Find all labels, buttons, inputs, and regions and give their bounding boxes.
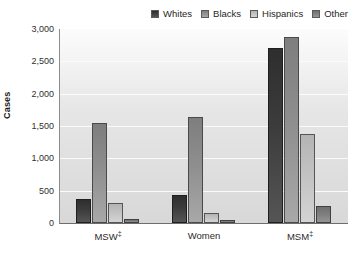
legend-item-blacks: Blacks	[201, 9, 241, 19]
bar-group	[268, 29, 332, 223]
bar-group	[76, 29, 140, 223]
y-tick-label: 2,000	[6, 89, 54, 99]
bar-whites-msm	[268, 48, 283, 223]
bar-hispanics-msm	[300, 134, 315, 223]
bar-blacks-msm	[284, 37, 299, 223]
y-tick-label: 3,000	[6, 24, 54, 34]
x-tick-label: MSW‡	[94, 230, 121, 242]
bar-whites-msw	[76, 199, 91, 223]
y-tick-label: 2,500	[6, 56, 54, 66]
bar-group	[172, 29, 236, 223]
legend-swatch-hispanics	[250, 10, 258, 18]
legend-swatch-other	[312, 10, 320, 18]
bar-hispanics-women	[204, 213, 219, 223]
bar-other-women	[220, 220, 235, 223]
legend-label-blacks: Blacks	[213, 9, 241, 19]
bar-other-msw	[124, 219, 139, 223]
legend-label-whites: Whites	[163, 9, 192, 19]
bars-layer	[60, 29, 347, 223]
legend-item-whites: Whites	[151, 9, 192, 19]
chart-legend: Whites Blacks Hispanics Other	[0, 9, 354, 19]
bar-hispanics-msw	[108, 203, 123, 223]
x-tick-label: Women	[188, 230, 221, 241]
y-tick-label: 1,500	[6, 121, 54, 131]
legend-swatch-whites	[151, 10, 159, 18]
legend-item-hispanics: Hispanics	[250, 9, 303, 19]
bar-other-msm	[316, 206, 331, 223]
legend-label-hispanics: Hispanics	[262, 9, 303, 19]
bar-whites-women	[172, 195, 187, 223]
y-tick-label: 500	[6, 186, 54, 196]
legend-swatch-blacks	[201, 10, 209, 18]
bar-chart: Whites Blacks Hispanics Other Cases 0500…	[0, 0, 354, 259]
y-tick-label: 1,000	[6, 153, 54, 163]
x-tick-label: MSM‡	[287, 230, 313, 242]
bar-blacks-msw	[92, 123, 107, 223]
y-tick-label: 0	[6, 218, 54, 228]
bar-blacks-women	[188, 117, 203, 223]
legend-label-other: Other	[324, 9, 348, 19]
legend-item-other: Other	[312, 9, 348, 19]
